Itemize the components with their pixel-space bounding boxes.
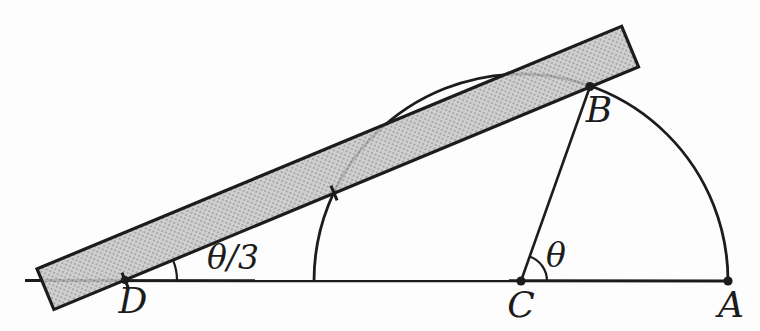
figure-canvas: D θ/3 θ C B A bbox=[0, 0, 760, 331]
label-point-d: D bbox=[118, 280, 148, 321]
angle-arc-theta-third bbox=[173, 260, 177, 280]
label-point-c: C bbox=[507, 284, 535, 325]
label-point-b: B bbox=[585, 89, 612, 130]
label-point-a: A bbox=[715, 284, 744, 325]
angle-trisection-diagram: D θ/3 θ C B A bbox=[0, 0, 760, 331]
angle-arc-theta bbox=[530, 257, 547, 282]
label-angle-theta-third: θ/3 bbox=[207, 238, 259, 277]
label-angle-theta: θ bbox=[546, 236, 566, 275]
